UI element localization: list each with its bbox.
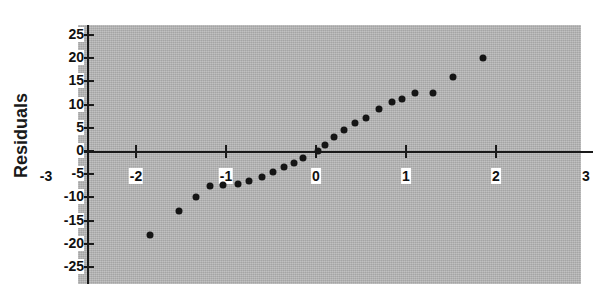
data-point (351, 120, 358, 127)
data-point (340, 127, 347, 134)
x-tick-label: 0 (311, 168, 321, 184)
data-point (322, 142, 329, 149)
data-point (314, 148, 321, 155)
data-point (269, 168, 276, 175)
data-point (300, 155, 307, 162)
y-tick-label: -15 (54, 213, 84, 228)
data-point (399, 96, 406, 103)
data-point (376, 106, 383, 113)
data-point (331, 134, 338, 141)
x-tick-mark (135, 145, 137, 158)
x-tick-mark (495, 145, 497, 158)
data-point (449, 73, 456, 80)
x-tick-mark (225, 145, 227, 158)
data-point (259, 173, 266, 180)
y-tick-label: -20 (54, 236, 84, 251)
y-tick-label: 15 (54, 73, 84, 88)
y-axis-title: Residuals (11, 76, 32, 196)
x-tick-mark (405, 145, 407, 158)
y-tick-label: 5 (54, 120, 84, 135)
y-tick-label: -10 (54, 189, 84, 204)
residuals-scatter-chart: Residuals -25-20-15-10-50510152025 -3-2-… (0, 0, 593, 297)
y-axis-line (87, 25, 89, 284)
y-tick-label: 10 (54, 97, 84, 112)
data-point (388, 99, 395, 106)
data-point (280, 164, 287, 171)
x-tick-label: 1 (401, 168, 411, 184)
data-point (176, 208, 183, 215)
plot-panel (78, 25, 581, 284)
x-axis-line (78, 151, 593, 153)
data-point (146, 231, 153, 238)
data-point (220, 181, 227, 188)
data-point (234, 181, 241, 188)
y-tick-label: 25 (54, 27, 84, 42)
x-tick-label: 2 (491, 168, 501, 184)
data-point (193, 194, 200, 201)
y-tick-label: 0 (54, 143, 84, 158)
x-tick-label: -2 (129, 168, 143, 184)
y-tick-label: -25 (54, 259, 84, 274)
y-tick-label: 20 (54, 50, 84, 65)
x-tick-label: 3 (581, 168, 591, 184)
y-tick-label: -5 (54, 166, 84, 181)
data-point (246, 178, 253, 185)
x-tick-label: -3 (39, 168, 53, 184)
data-point (363, 114, 370, 121)
data-point (206, 182, 213, 189)
data-point (290, 160, 297, 167)
data-point (479, 55, 486, 62)
data-point (430, 89, 437, 96)
data-point (412, 89, 419, 96)
